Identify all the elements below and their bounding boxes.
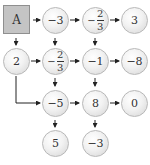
node-r1c4: 3	[121, 7, 148, 34]
start-node-a: A	[3, 5, 30, 34]
node-r2c2: − 23	[42, 48, 69, 75]
node-r4c3: −3	[82, 130, 109, 157]
node-r3c3: 8	[82, 90, 109, 117]
node-r3c2: −5	[42, 90, 69, 117]
fraction: − 23	[47, 50, 63, 73]
node-r2c1: 2	[3, 48, 30, 75]
node-r1c2: −3	[42, 7, 69, 34]
node-r3c4: 0	[121, 90, 148, 117]
node-r2c3: −1	[82, 48, 109, 75]
fraction: − 23	[87, 9, 103, 32]
node-r4c2: 5	[42, 130, 69, 157]
node-r2c4: −8	[121, 48, 148, 75]
node-r1c3: − 23	[82, 7, 109, 34]
start-label: A	[12, 13, 21, 27]
